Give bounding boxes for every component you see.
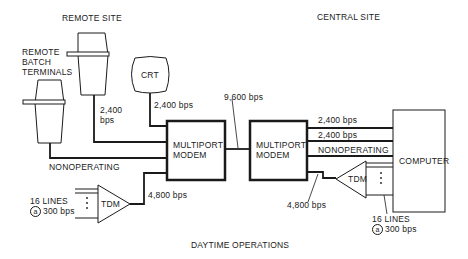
computer-label: COMPUTER <box>399 156 449 166</box>
central-line-2-label: 2,400 bps <box>318 130 357 140</box>
remote-site-heading: REMOTE SITE <box>62 13 122 23</box>
nonoperating-central-label: NONOPERATING <box>318 145 389 155</box>
modem-remote-label: MULTIPORT MODEM <box>173 140 223 160</box>
modem-link-label: 9,600 bps <box>224 92 263 102</box>
diagram-caption: DAYTIME OPERATIONS <box>191 240 289 250</box>
tdm-remote-link-label: 4,800 bps <box>148 190 187 200</box>
tdm-remote-inputs-label: 16 LINES a300 bps <box>30 196 75 217</box>
central-line-1-label: 2,400 bps <box>318 115 357 125</box>
tdm-central-inputs-label: 16 LINES a300 bps <box>372 214 417 235</box>
remote-batch-terminals-label: REMOTE BATCH TERMINALS <box>22 47 72 77</box>
nonoperating-remote-label: NONOPERATING <box>49 162 120 172</box>
modem-central-label: MULTIPORT MODEM <box>256 140 306 160</box>
tdm-central-link-label: 4,800 bps <box>287 200 326 210</box>
tdm-central-label: TDM <box>348 174 367 184</box>
remote-terminal-lower-icon <box>23 80 65 143</box>
tdm-remote-label: TDM <box>101 199 120 209</box>
crt-link-label: 2,400 bps <box>154 100 193 110</box>
remote-terminal-upper-icon <box>67 33 109 95</box>
diagram-canvas: REMOTE SITE CENTRAL SITE REMOTE BATCH TE… <box>0 0 468 259</box>
central-site-heading: CENTRAL SITE <box>317 12 380 22</box>
crt-label: CRT <box>141 70 159 80</box>
terminal-link-label: 2,400 bps <box>100 105 122 125</box>
